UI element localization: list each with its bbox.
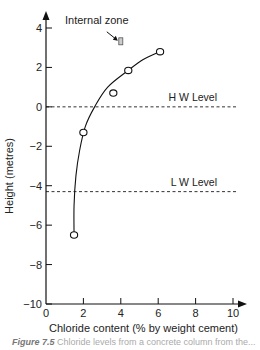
y-axis-arrow-icon [43,11,50,20]
internal-zone-marker [119,38,123,45]
y-tick-label: 4 [36,22,42,34]
y-tick-label: −8 [29,259,42,271]
annotation-label: Internal zone [65,14,129,26]
trend-curve-path [74,52,160,235]
x-tick-label: 2 [80,307,86,319]
x-axis-arrow-icon [238,301,247,308]
axes: 420−2−4−6−8−100246810Chloride content (%… [3,11,247,334]
data-point-circle [70,232,77,238]
x-tick-label: 4 [118,307,124,319]
x-tick-label: 8 [193,307,199,319]
data-point-circle [156,48,163,54]
trend-curve [74,52,160,235]
chart: H W LevelL W Level 420−2−4−6−8−100246810… [0,0,260,335]
y-axis-label: Height (metres) [3,138,15,214]
figure-caption-text: Chloride levels from a concrete column f… [57,337,256,347]
data-point-circle [125,67,132,73]
y-tick-label: −6 [29,219,42,231]
x-tick-label: 10 [227,307,239,319]
annotations: Internal zone [65,14,129,41]
x-tick-label: 0 [43,307,49,319]
arrow-head-icon [113,36,118,41]
y-tick-label: −4 [29,180,42,192]
reference-line-label: L W Level [171,176,217,188]
figure-caption: Figure 7.5 Chloride levels from a concre… [12,337,256,347]
y-tick-label: 2 [36,61,42,73]
x-axis-label: Chloride content (% by weight cement) [49,322,238,334]
y-tick-label: −2 [29,140,42,152]
reference-line-label: H W Level [169,91,217,103]
y-tick-label: 0 [36,101,42,113]
data-point-circle [80,129,87,135]
data-point-circle [110,90,117,96]
data-points [70,38,163,238]
y-tick-label: −10 [23,298,42,310]
reference-lines: H W LevelL W Level [46,91,236,192]
figure-label: Figure 7.5 [12,337,55,347]
x-tick-label: 6 [155,307,161,319]
